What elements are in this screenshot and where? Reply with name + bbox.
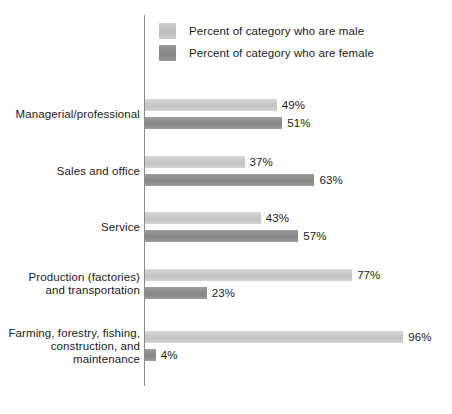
bar-female — [145, 230, 298, 242]
bar-group: Farming, forestry, fishing,construction,… — [0, 331, 452, 371]
bar-value-female: 51% — [287, 117, 310, 129]
bar-male — [145, 331, 403, 343]
bar-value-female: 23% — [212, 287, 235, 299]
category-label-line: maintenance — [0, 353, 140, 366]
category-label: Managerial/professional — [0, 108, 140, 121]
bar-value-male: 37% — [250, 156, 273, 168]
bar-row-male: 43% — [145, 212, 289, 224]
bar-value-female: 63% — [319, 174, 342, 186]
category-label-line: Managerial/professional — [0, 108, 140, 121]
bar-group: Production (factories)and transportation… — [0, 269, 452, 309]
bar-male — [145, 99, 277, 111]
bar-row-female: 63% — [145, 174, 343, 186]
bar-value-male: 49% — [282, 99, 305, 111]
bar-row-female: 57% — [145, 230, 327, 242]
bar-group: Sales and office37%63% — [0, 156, 452, 196]
category-label-line: construction, and — [0, 340, 140, 353]
bar-value-male: 43% — [266, 212, 289, 224]
bar-chart: Percent of category who are male Percent… — [0, 0, 452, 414]
bar-male — [145, 269, 352, 281]
category-label-line: Sales and office — [0, 165, 140, 178]
bar-row-male: 49% — [145, 99, 305, 111]
bar-male — [145, 212, 261, 224]
category-label-line: and transportation — [0, 284, 140, 297]
bar-female — [145, 174, 314, 186]
category-label-line: Farming, forestry, fishing, — [0, 327, 140, 340]
bar-female — [145, 287, 207, 299]
bar-group: Managerial/professional49%51% — [0, 99, 452, 139]
bar-male — [145, 156, 245, 168]
category-label-line: Service — [0, 221, 140, 234]
bar-value-female: 4% — [161, 349, 178, 361]
category-label: Production (factories)and transportation — [0, 271, 140, 297]
bar-row-female: 4% — [145, 349, 178, 361]
category-label: Sales and office — [0, 165, 140, 178]
category-label: Farming, forestry, fishing,construction,… — [0, 327, 140, 366]
bar-row-female: 51% — [145, 117, 311, 129]
bar-value-male: 77% — [357, 269, 380, 281]
plot-area: Managerial/professional49%51%Sales and o… — [0, 0, 452, 414]
bar-row-male: 96% — [145, 331, 432, 343]
bar-row-female: 23% — [145, 287, 235, 299]
bar-female — [145, 349, 156, 361]
category-label-line: Production (factories) — [0, 271, 140, 284]
bar-value-male: 96% — [408, 331, 431, 343]
bar-row-male: 37% — [145, 156, 273, 168]
bar-group: Service43%57% — [0, 212, 452, 252]
bar-row-male: 77% — [145, 269, 380, 281]
category-label: Service — [0, 221, 140, 234]
bar-value-female: 57% — [303, 230, 326, 242]
bar-female — [145, 117, 282, 129]
